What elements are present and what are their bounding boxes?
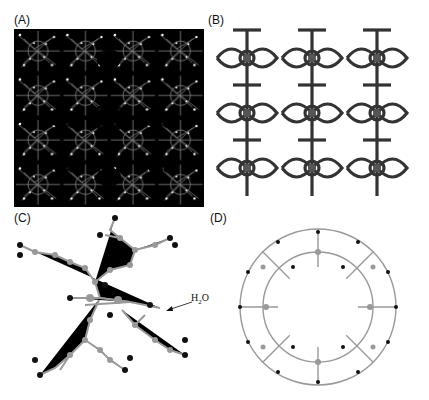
panel-label-a: (A) (14, 13, 30, 27)
framework-network-b (215, 28, 415, 200)
water-annotation: H2O (191, 292, 209, 306)
panel-c-image (10, 210, 210, 390)
panel-b-image (215, 28, 415, 200)
cage-structure-d (218, 212, 423, 397)
annotation-o: O (202, 292, 209, 303)
coordination-structure-c (10, 210, 210, 390)
panel-a-image (14, 29, 204, 207)
panel-d-image (218, 212, 423, 397)
panel-label-b: (B) (208, 13, 224, 27)
framework-packing-a (14, 29, 204, 207)
